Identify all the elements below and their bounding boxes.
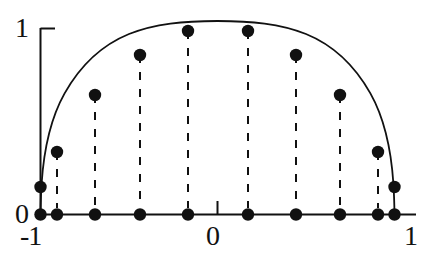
- curve-node: [290, 49, 302, 61]
- axis-node: [34, 208, 46, 220]
- x-axis-tick-label-zero: 0: [206, 222, 220, 250]
- axis-node: [134, 208, 146, 220]
- axis-node: [334, 208, 346, 220]
- curve-node: [89, 89, 101, 101]
- axis-node: [242, 208, 254, 220]
- curve-node: [51, 146, 63, 158]
- axis-node: [372, 208, 384, 220]
- axis-node: [388, 208, 400, 220]
- droplines-group: [57, 31, 378, 208]
- semicircle-curve: [41, 21, 395, 215]
- x-axis-tick-label-minus-one: -1: [20, 222, 41, 250]
- curve-node-markers: [34, 25, 400, 193]
- curve-node: [134, 49, 146, 61]
- figure-container: 1 0 -1 0 1: [0, 0, 433, 255]
- curve-node: [372, 146, 384, 158]
- axis-node: [290, 208, 302, 220]
- curve-node: [34, 181, 46, 193]
- semicircle-chebyshev-plot: [0, 0, 433, 255]
- axis-node: [182, 208, 194, 220]
- curve-node: [182, 25, 194, 37]
- axis-node: [89, 208, 101, 220]
- y-axis-tick-label-one: 1: [15, 14, 29, 42]
- curve-node: [334, 89, 346, 101]
- x-axis-tick-label-one: 1: [404, 222, 418, 250]
- curve-node: [388, 181, 400, 193]
- axis-node: [51, 208, 63, 220]
- curve-group: [41, 21, 395, 215]
- curve-node: [242, 25, 254, 37]
